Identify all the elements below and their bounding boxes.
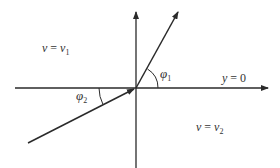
angle-arc-phi1	[148, 69, 159, 88]
region-upper-label: v = v1	[42, 41, 69, 57]
angle-label-phi1: φ1	[160, 66, 171, 83]
angle-arc-phi2	[99, 88, 103, 105]
upper-ray	[136, 12, 178, 88]
region-lower-label: v = v2	[196, 120, 223, 136]
angle-label-phi2: φ2	[76, 88, 87, 105]
interface-label: y = 0	[221, 71, 246, 85]
refraction-diagram: v = v1 y = 0 v = v2 φ1 φ2	[0, 0, 280, 168]
